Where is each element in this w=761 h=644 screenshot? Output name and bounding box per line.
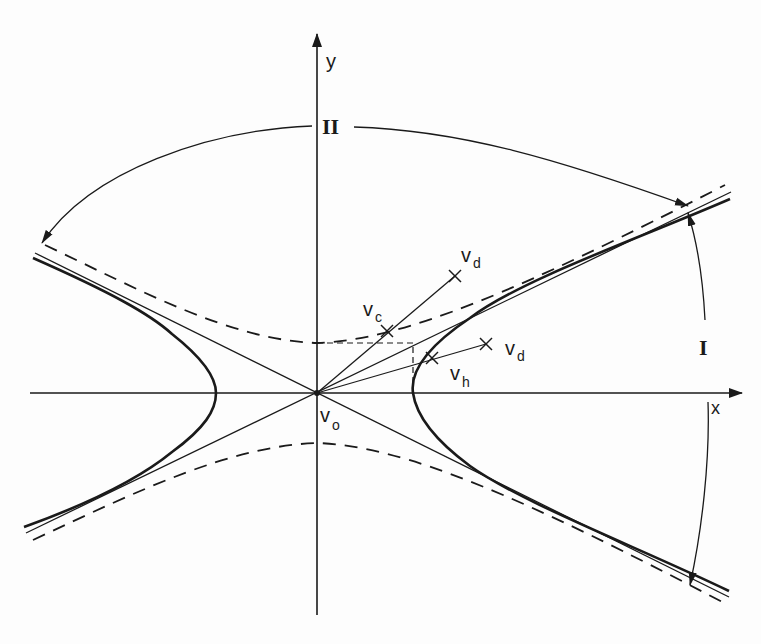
asymptote-falling — [35, 253, 729, 597]
marker-vc — [381, 325, 393, 337]
region-ii-label: II — [322, 114, 339, 139]
marker-vd-upper — [449, 270, 461, 282]
label-vc: v c — [363, 298, 382, 325]
svg-text:v: v — [320, 404, 330, 426]
svg-text:v: v — [505, 337, 515, 359]
region-i-arc-lower — [690, 402, 708, 585]
conjugate-hyperbola-upper — [45, 185, 725, 343]
origin-point — [314, 390, 320, 396]
label-vd-upper: v d — [461, 244, 481, 271]
label-vh: v h — [450, 362, 470, 390]
region-ii-arc-right — [354, 127, 688, 206]
marker-vd-lower — [480, 338, 492, 350]
label-vo: v o — [320, 404, 340, 433]
hyperbola-diagram: y x II I v o v c v d v h v d — [0, 0, 761, 644]
region-i-label: I — [699, 335, 708, 360]
svg-text:d: d — [517, 348, 525, 364]
svg-text:c: c — [375, 309, 382, 325]
vector-to-vd-upper — [317, 276, 455, 393]
x-axis-label: x — [711, 398, 720, 418]
svg-text:h: h — [462, 374, 470, 390]
svg-text:o: o — [332, 417, 340, 433]
svg-text:v: v — [363, 298, 373, 320]
conjugate-hyperbola-lower — [33, 443, 728, 605]
label-vd-lower: v d — [505, 337, 525, 364]
svg-text:v: v — [450, 362, 460, 384]
y-axis-label: y — [326, 50, 336, 72]
region-i-arc-upper — [688, 213, 705, 320]
region-ii-arc-left — [42, 126, 312, 243]
svg-text:d: d — [473, 255, 481, 271]
svg-text:v: v — [461, 244, 471, 266]
diagram-canvas: y x II I v o v c v d v h v d — [0, 0, 761, 644]
